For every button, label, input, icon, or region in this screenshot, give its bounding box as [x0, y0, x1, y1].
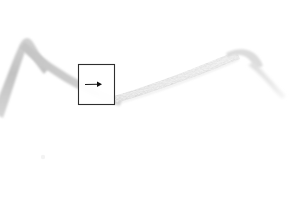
image-canvas: Greyscale micrograph of a slender filame…: [0, 0, 305, 206]
annotation-layer: [0, 0, 305, 206]
